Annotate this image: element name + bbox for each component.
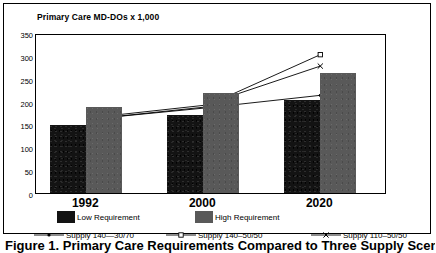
chart-title: Primary Care MD-DOs x 1,000 [37, 12, 159, 22]
y-axis-tick-label: 50 [25, 168, 33, 177]
legend-item-high-requirement: High Requirement [195, 211, 279, 223]
legend-item-low-requirement: Low Requirement [57, 211, 140, 223]
y-axis-tick-label: 100 [20, 145, 33, 154]
x-axis-category-label: 2000 [189, 196, 216, 210]
bar-high-requirement [203, 93, 239, 193]
y-axis-tick-label: 250 [20, 76, 33, 85]
y-axis-tick-label: 300 [20, 53, 33, 62]
y-axis-tick-label: 200 [20, 99, 33, 108]
legend-label: High Requirement [215, 213, 279, 222]
bar-low-requirement [284, 100, 320, 193]
plot-area: 050100150200250300350 [35, 34, 386, 194]
y-axis-tick-label: 0 [29, 191, 33, 200]
legend-swatch-icon [57, 211, 75, 223]
bar-low-requirement [167, 115, 203, 193]
legend-label: Low Requirement [77, 213, 140, 222]
y-axis-tick-label: 150 [20, 122, 33, 131]
figure-frame: Primary Care MD-DOs x 1,000 050100150200… [3, 3, 431, 234]
legend-swatch-icon [195, 211, 213, 223]
bar-low-requirement [50, 125, 86, 193]
bar-high-requirement [86, 107, 122, 193]
x-axis-category-label: 1992 [72, 196, 99, 210]
figure-caption: Figure 1. Primary Care Requirements Comp… [5, 238, 435, 253]
legend-bars: Low RequirementHigh Requirement [35, 211, 386, 225]
y-axis-tick-label: 350 [20, 31, 33, 40]
bar-high-requirement [320, 73, 356, 193]
x-axis-category-label: 2020 [306, 196, 333, 210]
